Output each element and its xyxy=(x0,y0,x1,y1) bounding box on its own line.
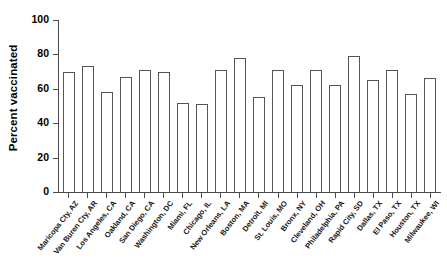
x-tick-mark xyxy=(430,193,431,198)
x-tick-slot xyxy=(288,193,307,198)
x-tick-mark xyxy=(392,193,393,198)
bar[interactable] xyxy=(101,92,113,192)
y-tick-mark xyxy=(53,54,58,55)
bar-slot xyxy=(345,20,364,192)
bar[interactable] xyxy=(120,77,132,192)
x-tick-mark xyxy=(87,193,88,198)
x-tick-mark xyxy=(354,193,355,198)
x-tick-slot xyxy=(116,193,135,198)
bar-slot xyxy=(307,20,326,192)
x-tick-mark xyxy=(258,193,259,198)
x-tick-slot xyxy=(326,193,345,198)
x-tick-mark xyxy=(201,193,202,198)
x-tick-slot xyxy=(97,193,116,198)
bar-slot xyxy=(402,20,421,192)
y-tick-mark xyxy=(53,192,58,193)
y-tick-label: 60 xyxy=(37,82,49,94)
y-tick-label: 20 xyxy=(37,151,49,163)
x-axis-labels: Maricopa Cty, AZVan Buren Cty, ARLos Ang… xyxy=(59,199,440,266)
y-tick-label: 80 xyxy=(37,47,49,59)
bar[interactable] xyxy=(234,58,246,192)
x-tick-mark xyxy=(182,193,183,198)
x-tick-mark xyxy=(144,193,145,198)
x-tick-mark xyxy=(278,193,279,198)
x-tick-mark xyxy=(125,193,126,198)
bar[interactable] xyxy=(272,70,284,192)
y-tick-label: 0 xyxy=(43,185,49,197)
bar-slot xyxy=(116,20,135,192)
bar[interactable] xyxy=(158,72,170,192)
y-tick-label: 40 xyxy=(37,116,49,128)
x-tick-mark xyxy=(106,193,107,198)
bar[interactable] xyxy=(291,85,303,192)
y-tick-mark xyxy=(53,20,58,21)
x-axis-ticks xyxy=(59,193,440,198)
bar[interactable] xyxy=(424,78,436,192)
y-tick-label: 100 xyxy=(31,13,49,25)
y-tick-mark xyxy=(53,123,58,124)
x-tick-slot xyxy=(192,193,211,198)
bar[interactable] xyxy=(329,85,341,192)
x-tick-slot xyxy=(269,193,288,198)
bar-slot xyxy=(364,20,383,192)
bar-slot xyxy=(269,20,288,192)
bar[interactable] xyxy=(310,70,322,192)
bar-slot xyxy=(383,20,402,192)
y-tick-mark xyxy=(53,158,58,159)
bar-slot xyxy=(173,20,192,192)
bar[interactable] xyxy=(215,70,227,192)
bar-slot xyxy=(249,20,268,192)
bar-slot xyxy=(78,20,97,192)
bar-slot xyxy=(326,20,345,192)
bar[interactable] xyxy=(253,97,265,192)
x-tick-slot xyxy=(402,193,421,198)
x-tick-slot xyxy=(59,193,78,198)
x-tick-mark xyxy=(335,193,336,198)
x-tick-slot xyxy=(230,193,249,198)
bar[interactable] xyxy=(348,56,360,192)
x-tick-slot xyxy=(421,193,440,198)
x-tick-mark xyxy=(220,193,221,198)
x-tick-slot xyxy=(345,193,364,198)
x-tick-mark xyxy=(163,193,164,198)
x-tick-slot xyxy=(383,193,402,198)
bar-slot xyxy=(59,20,78,192)
x-tick-slot xyxy=(154,193,173,198)
x-tick-slot xyxy=(78,193,97,198)
bar[interactable] xyxy=(196,104,208,192)
x-tick-slot xyxy=(307,193,326,198)
x-tick-slot xyxy=(364,193,383,198)
bar[interactable] xyxy=(82,66,94,192)
bar[interactable] xyxy=(177,103,189,192)
bar-slot xyxy=(97,20,116,192)
bar[interactable] xyxy=(405,94,417,192)
x-tick-mark xyxy=(411,193,412,198)
bar-slot xyxy=(230,20,249,192)
x-tick-slot xyxy=(249,193,268,198)
bar[interactable] xyxy=(386,70,398,192)
bar-slot xyxy=(192,20,211,192)
y-axis-title-text: Percent vaccinated xyxy=(7,45,19,152)
x-tick-mark xyxy=(373,193,374,198)
x-tick-slot xyxy=(211,193,230,198)
bar[interactable] xyxy=(63,72,75,192)
bar[interactable] xyxy=(367,80,379,192)
x-tick-slot xyxy=(173,193,192,198)
bar-series xyxy=(59,20,440,192)
y-axis-title: Percent vaccinated xyxy=(0,0,26,196)
bar-slot xyxy=(288,20,307,192)
x-tick-mark xyxy=(239,193,240,198)
bar-slot xyxy=(421,20,440,192)
x-tick-mark xyxy=(68,193,69,198)
y-tick-mark xyxy=(53,89,58,90)
bar-chart-figure: Percent vaccinated 020406080100 Maricopa… xyxy=(0,0,447,266)
bar[interactable] xyxy=(139,70,151,192)
x-tick-slot xyxy=(135,193,154,198)
x-tick-mark xyxy=(316,193,317,198)
bar-slot xyxy=(135,20,154,192)
bar-slot xyxy=(154,20,173,192)
x-tick-mark xyxy=(297,193,298,198)
bar-slot xyxy=(211,20,230,192)
